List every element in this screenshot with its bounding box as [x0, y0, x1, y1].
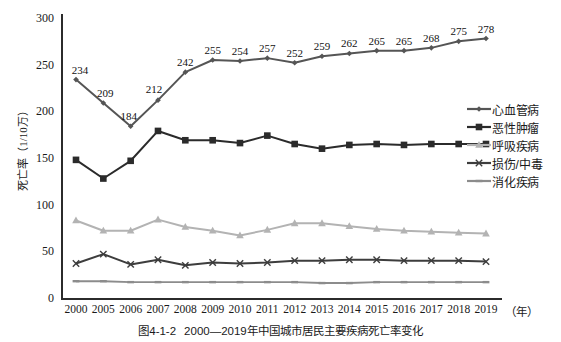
data-label: 212 [137, 83, 171, 95]
data-point-marker [72, 217, 80, 224]
series-canvas [62, 18, 502, 298]
y-axis-tick: 0 [20, 293, 54, 303]
data-point-marker [319, 145, 326, 152]
chart-figure: 死亡率（1/10万） 050100150200250300 2342091842… [0, 0, 561, 342]
caption-text: 2000—2019年中国城市居民主要疾病死亡率变化 [184, 325, 423, 337]
data-point-marker [319, 53, 325, 59]
data-point-marker [237, 140, 244, 147]
data-point-marker [155, 128, 162, 135]
legend-item-4[interactable]: 损伤/中毒 [466, 154, 561, 172]
data-point-marker [401, 48, 407, 54]
y-axis-tick-labels: 050100150200250300 [18, 0, 54, 342]
x-axis-unit-label: （年） [505, 303, 538, 319]
data-label: 234 [63, 64, 97, 76]
series-line [76, 131, 486, 179]
legend-label: 消化疾病 [492, 173, 539, 190]
y-axis-tick: 150 [20, 153, 54, 163]
legend-label: 损伤/中毒 [492, 155, 542, 172]
data-point-marker [373, 141, 380, 148]
data-point-marker [428, 141, 435, 148]
x-axis-tick: 2019 [466, 303, 506, 315]
data-point-marker [456, 39, 462, 45]
data-point-marker [346, 142, 353, 149]
series-4 [73, 251, 489, 269]
y-axis-tick: 300 [20, 13, 54, 23]
y-axis-tick: 100 [20, 200, 54, 210]
data-point-marker [292, 60, 298, 66]
data-point-marker [209, 137, 216, 144]
y-axis-tick: 200 [20, 106, 54, 116]
legend-marker-icon [466, 101, 492, 117]
data-point-marker [374, 48, 380, 54]
y-axis-tick: 250 [20, 60, 54, 70]
series-2 [73, 128, 490, 182]
series-line [76, 254, 486, 265]
legend-item-5[interactable]: 消化疾病 [466, 172, 561, 190]
legend-label: 呼吸疾病 [492, 137, 539, 154]
data-point-marker [100, 175, 107, 182]
y-axis-tick: 50 [20, 246, 54, 256]
chart-legend: 心血管病恶性肿瘤呼吸疾病损伤/中毒消化疾病 [466, 100, 561, 190]
caption-number: 图4-1-2 [138, 325, 176, 337]
data-point-marker [154, 216, 162, 223]
data-point-marker [73, 157, 80, 164]
data-point-marker [182, 137, 189, 144]
data-point-marker [483, 36, 489, 42]
legend-item-3[interactable]: 呼吸疾病 [466, 136, 561, 154]
figure-caption: 图4-1-22000—2019年中国城市居民主要疾病死亡率变化 [0, 322, 561, 338]
data-point-marker [264, 132, 271, 139]
legend-marker-icon [466, 137, 492, 153]
legend-item-2[interactable]: 恶性肿瘤 [466, 118, 561, 136]
legend-marker-icon [466, 155, 492, 171]
legend-label: 恶性肿瘤 [492, 119, 539, 136]
data-point-marker [347, 51, 353, 57]
data-label: 184 [112, 110, 146, 122]
data-point-marker [476, 106, 482, 112]
legend-label: 心血管病 [492, 101, 539, 118]
data-point-marker [401, 142, 408, 149]
legend-marker-icon [466, 119, 492, 135]
x-axis-tick-labels: 2000200520062007200820092010201120122013… [0, 303, 561, 323]
data-point-marker [237, 58, 243, 64]
data-label: 209 [88, 87, 122, 99]
legend-item-1[interactable]: 心血管病 [466, 100, 561, 118]
plot-area [62, 18, 502, 298]
data-label: 242 [168, 56, 202, 68]
data-point-marker [127, 158, 134, 165]
series-5 [73, 281, 490, 283]
data-point-marker [291, 141, 298, 148]
x-axis-line [61, 298, 502, 300]
series-line [76, 281, 486, 283]
legend-marker-icon [466, 173, 492, 189]
data-point-marker [429, 45, 435, 51]
data-label: 278 [469, 23, 503, 35]
series-line [76, 220, 486, 236]
data-point-marker [265, 55, 271, 61]
series-3 [72, 216, 490, 239]
data-point-marker [455, 141, 462, 148]
data-point-marker [476, 124, 483, 131]
